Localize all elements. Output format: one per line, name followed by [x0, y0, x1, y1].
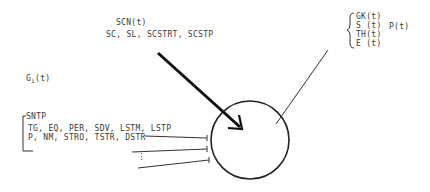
outputs-brace [347, 13, 354, 48]
output-e: E (t) [356, 39, 382, 48]
output-line [276, 50, 328, 124]
input-line-1 [145, 136, 207, 138]
output-th: TH(t) [356, 30, 382, 39]
scn-params: SC, SL, SCSTRT, SCSTP [106, 30, 213, 39]
output-gk: GK(t) [356, 12, 382, 21]
gi-tail: (t) [35, 74, 50, 83]
input-ellipsis-icon: ⋮ [137, 153, 146, 162]
sntp-params-line1: TG, EQ, PER, SDV, LSTM, LSTP [28, 124, 171, 133]
sntp-params-line2: P, NM, STRO, TSTR, DSTR [28, 133, 146, 142]
scn-title: SCN(t) [116, 18, 147, 27]
sntp-label: SNTP [26, 112, 46, 121]
output-combined: P(t) [389, 22, 409, 31]
scenario-arrow-shaft [158, 53, 240, 127]
gi-title: Gi(t) [26, 74, 50, 85]
output-s: S (t) [356, 21, 382, 30]
input-line-3 [138, 160, 209, 168]
